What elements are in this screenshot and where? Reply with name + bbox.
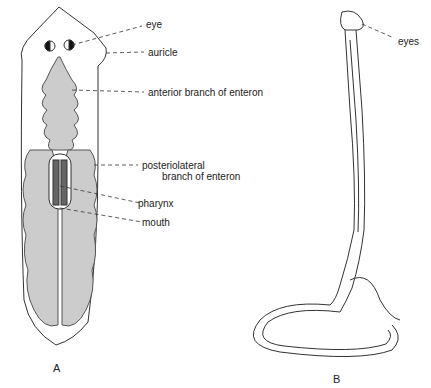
label-posteriolateral-branch: branch of enteron [162, 171, 240, 182]
planarian-figure [21, 7, 106, 345]
label-pharynx: pharynx [138, 198, 174, 209]
caption-b: B [333, 373, 340, 385]
label-posteriolateral: posteriolateral [142, 160, 205, 171]
elongated-worm-figure [253, 11, 400, 357]
label-mouth: mouth [142, 217, 170, 228]
label-eye: eye [146, 19, 162, 30]
label-auricle: auricle [148, 47, 177, 58]
diagram-canvas [0, 0, 431, 388]
leader-line-eyes [362, 24, 394, 38]
label-eyes: eyes [398, 36, 419, 47]
label-anterior-branch: anterior branch of enteron [148, 87, 263, 98]
caption-a: A [53, 362, 60, 374]
